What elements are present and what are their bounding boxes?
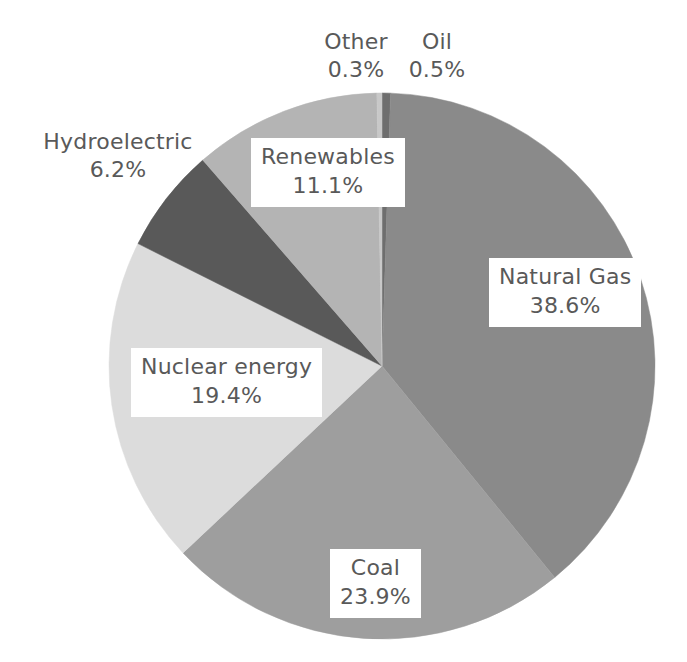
slice-label-hydroelectric-name: Hydroelectric bbox=[28, 128, 208, 156]
slice-label-renewables-name: Renewables bbox=[261, 143, 395, 172]
pie-chart: Other 0.3% Oil 0.5% Hydroelectric 6.2% R… bbox=[0, 0, 687, 662]
slice-label-coal-value: 23.9% bbox=[340, 583, 411, 612]
slice-label-other: Other 0.3% bbox=[310, 28, 402, 84]
slice-label-renewables: Renewables 11.1% bbox=[251, 138, 405, 207]
slice-label-coal-name: Coal bbox=[340, 554, 411, 583]
slice-label-nuclear-energy-value: 19.4% bbox=[141, 382, 312, 411]
slice-label-coal: Coal 23.9% bbox=[330, 549, 421, 618]
slice-label-nuclear-energy-name: Nuclear energy bbox=[141, 353, 312, 382]
slice-label-nuclear-energy: Nuclear energy 19.4% bbox=[131, 348, 322, 417]
slice-label-oil: Oil 0.5% bbox=[400, 28, 474, 84]
slice-label-oil-value: 0.5% bbox=[400, 56, 474, 84]
slice-label-other-name: Other bbox=[310, 28, 402, 56]
slice-label-oil-name: Oil bbox=[400, 28, 474, 56]
slice-label-natural-gas-name: Natural Gas bbox=[499, 263, 631, 292]
slice-label-hydroelectric-value: 6.2% bbox=[28, 156, 208, 184]
slice-label-natural-gas-value: 38.6% bbox=[499, 292, 631, 321]
slice-label-hydroelectric: Hydroelectric 6.2% bbox=[28, 128, 208, 184]
slice-label-natural-gas: Natural Gas 38.6% bbox=[489, 258, 641, 327]
slice-label-renewables-value: 11.1% bbox=[261, 172, 395, 201]
slice-label-other-value: 0.3% bbox=[310, 56, 402, 84]
